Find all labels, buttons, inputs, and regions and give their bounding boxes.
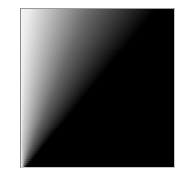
- gradient-figure: [20, 8, 175, 168]
- gradient-row: [21, 165, 174, 168]
